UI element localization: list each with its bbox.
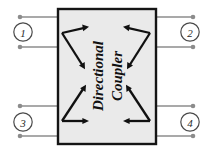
port-marker-2[interactable]: 2 [181,23,199,41]
terminal-dot-port-4-bottom [191,134,196,139]
terminal-dot-port-1-bottom [18,45,23,50]
terminal-dot-port-3-top [18,104,23,109]
terminal-dot-port-4-top [191,104,196,109]
port-label-1: 1 [20,27,26,39]
port-label-2: 2 [187,27,193,39]
directional-coupler-diagram: Directional Coupler 1 2 3 4 [0,0,213,153]
port-label-3: 3 [19,117,26,129]
port-label-4: 4 [187,117,193,129]
terminal-dot-port-1-top [18,15,23,20]
device-label-line-1: Directional [90,40,106,112]
diagram-canvas: Directional Coupler 1 2 3 4 [0,0,213,153]
terminal-dot-port-3-bottom [18,134,23,139]
port-marker-4[interactable]: 4 [181,113,199,131]
terminal-dot-port-2-top [191,15,196,20]
device-body [58,9,156,144]
device-label-line-2: Coupler [109,51,125,101]
port-marker-3[interactable]: 3 [14,113,32,131]
terminal-dot-port-2-bottom [191,45,196,50]
port-marker-1[interactable]: 1 [14,23,32,41]
